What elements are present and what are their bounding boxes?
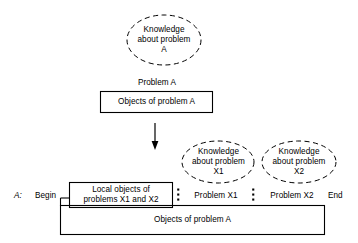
ellipse-knowledge-x2-line-2: about problem: [262, 157, 336, 167]
ellipse-knowledge-x1-line-3: X1: [182, 167, 255, 177]
label-local-objects-line-2: problems X1 and X2: [70, 195, 172, 205]
ellipse-knowledge-a-line-1: Knowledge: [127, 25, 201, 35]
dotted-separator-2: [252, 189, 254, 201]
ellipse-knowledge-x1-line-1: Knowledge: [182, 147, 255, 157]
label-objects-of-problem-a-bottom: Objects of problem A: [60, 215, 325, 225]
ellipse-knowledge-x2-line-1: Knowledge: [262, 147, 336, 157]
label-procedure-name: A:: [14, 191, 22, 201]
label-problem-a: Problem A: [116, 78, 198, 88]
label-problem-x2: Problem X2: [261, 191, 323, 201]
dotted-separator-1: [177, 189, 179, 201]
label-problem-x1: Problem X1: [185, 191, 247, 201]
down-arrow-icon: [152, 123, 159, 150]
diagram-canvas: Knowledge about problem A Problem A Obje…: [0, 0, 358, 243]
label-objects-of-problem-a-top: Objects of problem A: [100, 97, 213, 107]
label-end: End: [328, 191, 343, 201]
ellipse-knowledge-x1-line-2: about problem: [182, 157, 255, 167]
ellipse-knowledge-x2-line-3: X2: [262, 167, 336, 177]
label-begin: Begin: [35, 191, 56, 201]
label-local-objects-line-1: Local objects of: [70, 185, 172, 195]
ellipse-knowledge-a-line-3: A: [127, 45, 201, 55]
ellipse-knowledge-a-line-2: about problem: [127, 35, 201, 45]
